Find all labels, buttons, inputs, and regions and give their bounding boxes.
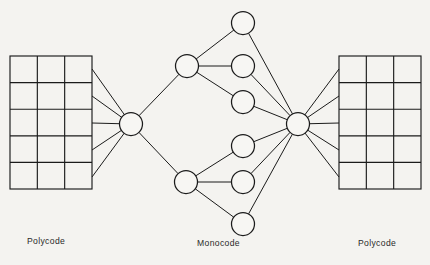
edge-leaf-5-to-hub-right bbox=[251, 132, 290, 173]
edge-hub-left-to-branch-dn bbox=[139, 132, 178, 173]
edge-branch-up-to-leaf-3 bbox=[197, 72, 234, 96]
caption-polycode-left: Polycode bbox=[27, 236, 65, 246]
edge-branch-dn-to-leaf-6 bbox=[195, 189, 233, 217]
edge-leaf-3-to-hub-right bbox=[254, 106, 288, 119]
leaf-node-1 bbox=[232, 12, 255, 35]
lower-branch-node bbox=[175, 171, 198, 194]
leaf-node-4 bbox=[232, 135, 255, 158]
edge-leaf-2-to-hub-right bbox=[251, 74, 290, 115]
left-hub-node bbox=[120, 113, 143, 136]
right-hub-node bbox=[287, 113, 310, 136]
diagram-canvas: Polycode Monocode Polycode bbox=[0, 0, 430, 265]
edge-leaf-4-to-hub-right bbox=[254, 128, 288, 141]
leaf-node-3 bbox=[232, 91, 255, 114]
edge-leaf-6-to-hub-right bbox=[249, 134, 293, 214]
leaf-node-6 bbox=[232, 213, 255, 236]
caption-polycode-right: Polycode bbox=[358, 238, 396, 248]
edge-branch-up-to-leaf-1 bbox=[196, 30, 234, 59]
right-polycode-grid-outline bbox=[339, 56, 421, 189]
edge-branch-dn-to-leaf-4 bbox=[196, 152, 234, 176]
right-polycode-grid bbox=[339, 56, 421, 189]
left-polycode-grid-outline bbox=[10, 56, 92, 189]
upper-branch-node bbox=[176, 55, 199, 78]
network-diagram bbox=[0, 0, 430, 265]
leaf-node-5 bbox=[232, 171, 255, 194]
caption-monocode: Monocode bbox=[197, 238, 240, 248]
edge-hub-left-to-branch-up bbox=[139, 74, 179, 115]
left-polycode-grid bbox=[10, 56, 92, 189]
leaf-node-2 bbox=[232, 55, 255, 78]
grid-layer bbox=[10, 56, 421, 189]
